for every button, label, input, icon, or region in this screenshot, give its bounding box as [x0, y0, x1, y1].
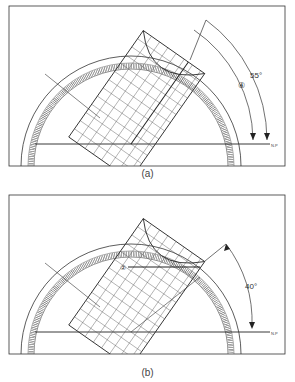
- protractor-diagram-a: 55° ④ N.P: [0, 0, 295, 170]
- panel-a: 55° ④ N.P (a): [0, 0, 295, 190]
- step-marker-a: ④: [238, 81, 245, 90]
- shadow-grid-a: [69, 31, 205, 170]
- caption-b: (b): [0, 367, 295, 378]
- horizon-mark-a: N.P: [271, 143, 278, 148]
- panel-b: 40° ② N.P (b): [0, 189, 295, 382]
- caption-a: (a): [0, 168, 295, 179]
- protractor-diagram-b: 40° ② N.P: [0, 189, 295, 359]
- horizon-mark-b: N.P: [271, 331, 278, 336]
- angle-label-a: 55°: [250, 71, 262, 80]
- shadow-grid-b: [69, 219, 205, 359]
- angle-label-b: 40°: [245, 282, 257, 291]
- step-marker-b: ②: [120, 264, 126, 271]
